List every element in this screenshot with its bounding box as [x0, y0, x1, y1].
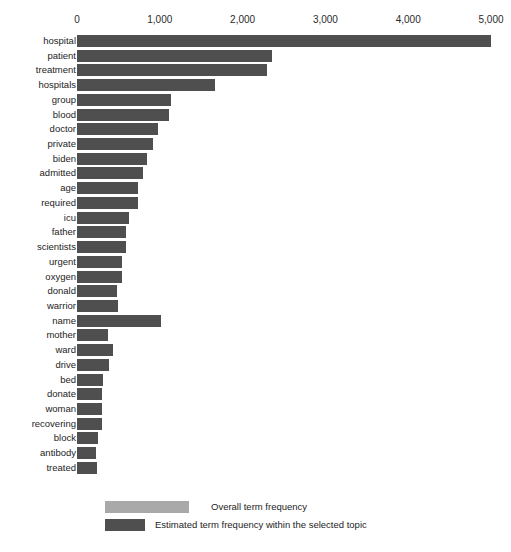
bar-row[interactable]: oxygen — [0, 270, 511, 285]
bar-row[interactable]: biden — [0, 152, 511, 167]
term-label[interactable]: recovering — [6, 417, 76, 430]
bar-topic-frequency[interactable] — [77, 344, 113, 356]
bar-topic-frequency[interactable] — [77, 359, 109, 371]
legend-swatch-overall-icon — [105, 501, 189, 513]
bar-row[interactable]: private — [0, 137, 511, 152]
bar-topic-frequency[interactable] — [77, 418, 102, 430]
bar-row[interactable]: hospital — [0, 34, 511, 49]
bar-track — [77, 432, 503, 444]
bar-topic-frequency[interactable] — [77, 212, 129, 224]
bar-row[interactable]: name — [0, 314, 511, 329]
term-label[interactable]: admitted — [6, 166, 76, 179]
term-label[interactable]: treatment — [6, 63, 76, 76]
term-label[interactable]: scientists — [6, 240, 76, 253]
bar-topic-frequency[interactable] — [77, 374, 103, 386]
bar-topic-frequency[interactable] — [77, 256, 122, 268]
bar-row[interactable]: father — [0, 225, 511, 240]
bar-track — [77, 403, 503, 415]
bar-topic-frequency[interactable] — [77, 403, 102, 415]
bar-topic-frequency[interactable] — [77, 462, 97, 474]
bar-row[interactable]: blood — [0, 108, 511, 123]
bar-row[interactable]: treatment — [0, 63, 511, 78]
bar-row[interactable]: hospitals — [0, 78, 511, 93]
term-label[interactable]: donate — [6, 387, 76, 400]
bar-row[interactable]: scientists — [0, 240, 511, 255]
bar-row[interactable]: warrior — [0, 299, 511, 314]
bar-row[interactable]: group — [0, 93, 511, 108]
term-label[interactable]: block — [6, 431, 76, 444]
bar-topic-frequency[interactable] — [77, 109, 169, 121]
term-label[interactable]: donald — [6, 284, 76, 297]
term-label[interactable]: age — [6, 181, 76, 194]
bar-row[interactable]: antibody — [0, 446, 511, 461]
bar-row[interactable]: required — [0, 196, 511, 211]
bar-topic-frequency[interactable] — [77, 123, 158, 135]
bar-row[interactable]: urgent — [0, 255, 511, 270]
bar-topic-frequency[interactable] — [77, 241, 126, 253]
bar-topic-frequency[interactable] — [77, 153, 147, 165]
bar-row[interactable]: bed — [0, 373, 511, 388]
term-label[interactable]: group — [6, 93, 76, 106]
bar-topic-frequency[interactable] — [77, 388, 102, 400]
term-label[interactable]: warrior — [6, 299, 76, 312]
bar-topic-frequency[interactable] — [77, 315, 161, 327]
term-label[interactable]: patient — [6, 49, 76, 62]
bar-topic-frequency[interactable] — [77, 447, 96, 459]
term-label[interactable]: doctor — [6, 122, 76, 135]
bar-row[interactable]: recovering — [0, 417, 511, 432]
bar-topic-frequency[interactable] — [77, 50, 272, 62]
bar-row[interactable]: mother — [0, 328, 511, 343]
bar-topic-frequency[interactable] — [77, 138, 153, 150]
bar-track — [77, 300, 503, 312]
term-label[interactable]: required — [6, 196, 76, 209]
term-label[interactable]: hospital — [6, 34, 76, 47]
bar-topic-frequency[interactable] — [77, 79, 215, 91]
bar-topic-frequency[interactable] — [77, 197, 138, 209]
bar-row[interactable]: drive — [0, 358, 511, 373]
term-label[interactable]: icu — [6, 211, 76, 224]
bar-track — [77, 212, 503, 224]
bar-topic-frequency[interactable] — [77, 64, 267, 76]
bar-row[interactable]: ward — [0, 343, 511, 358]
bar-row[interactable]: block — [0, 431, 511, 446]
x-axis-tick-label: 2,000 — [230, 14, 255, 26]
term-label[interactable]: private — [6, 137, 76, 150]
term-label[interactable]: treated — [6, 461, 76, 474]
bar-topic-frequency[interactable] — [77, 271, 122, 283]
bar-topic-frequency[interactable] — [77, 167, 143, 179]
bar-row[interactable]: patient — [0, 49, 511, 64]
term-label[interactable]: hospitals — [6, 78, 76, 91]
term-label[interactable]: woman — [6, 402, 76, 415]
bar-topic-frequency[interactable] — [77, 432, 98, 444]
bar-topic-frequency[interactable] — [77, 182, 138, 194]
bar-row[interactable]: treated — [0, 461, 511, 476]
bar-topic-frequency[interactable] — [77, 329, 108, 341]
term-label[interactable]: urgent — [6, 255, 76, 268]
bar-row[interactable]: age — [0, 181, 511, 196]
bar-topic-frequency[interactable] — [77, 226, 126, 238]
bar-row[interactable]: admitted — [0, 166, 511, 181]
term-label[interactable]: antibody — [6, 446, 76, 459]
legend-label-topic: Estimated term frequency within the sele… — [155, 519, 367, 531]
x-axis: 01,0002,0003,0004,0005,000 — [0, 0, 511, 34]
bar-row[interactable]: donald — [0, 284, 511, 299]
x-axis-tick-label: 5,000 — [478, 14, 503, 26]
bar-topic-frequency[interactable] — [77, 94, 171, 106]
term-label[interactable]: biden — [6, 152, 76, 165]
bar-topic-frequency[interactable] — [77, 35, 491, 47]
bar-row[interactable]: woman — [0, 402, 511, 417]
term-label[interactable]: oxygen — [6, 270, 76, 283]
term-label[interactable]: ward — [6, 343, 76, 356]
legend-label-overall: Overall term frequency — [211, 501, 307, 513]
term-label[interactable]: blood — [6, 108, 76, 121]
term-label[interactable]: mother — [6, 328, 76, 341]
bar-topic-frequency[interactable] — [77, 300, 118, 312]
bar-row[interactable]: donate — [0, 387, 511, 402]
bar-topic-frequency[interactable] — [77, 285, 117, 297]
bar-row[interactable]: icu — [0, 211, 511, 226]
bar-row[interactable]: doctor — [0, 122, 511, 137]
term-label[interactable]: drive — [6, 358, 76, 371]
term-label[interactable]: name — [6, 314, 76, 327]
term-label[interactable]: father — [6, 225, 76, 238]
term-label[interactable]: bed — [6, 373, 76, 386]
